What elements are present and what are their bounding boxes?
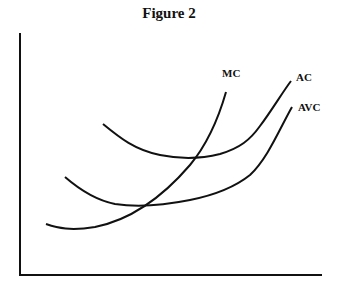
- mc-label: MC: [222, 67, 240, 79]
- ac-curve: [103, 81, 291, 158]
- avc-curve: [65, 107, 292, 206]
- mc-curve: [46, 92, 226, 229]
- cost-curves-chart: MC AC AVC: [0, 0, 338, 293]
- avc-label: AVC: [298, 101, 320, 113]
- ac-label: AC: [296, 71, 312, 83]
